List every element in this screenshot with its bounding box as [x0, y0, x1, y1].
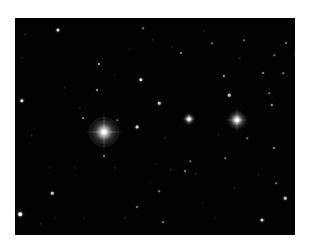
faint-star	[262, 72, 264, 74]
faint-star	[271, 104, 273, 106]
faint-star	[74, 167, 75, 168]
faint-star	[180, 52, 182, 54]
faint-star	[224, 157, 226, 159]
faint-star	[149, 182, 150, 183]
faint-star	[195, 173, 196, 174]
faint-star	[54, 217, 55, 218]
faint-star	[114, 74, 115, 75]
faint-star	[49, 167, 50, 168]
faint-star	[273, 54, 275, 56]
faint-star	[243, 39, 245, 41]
faint-star	[82, 117, 84, 119]
faint-star	[124, 217, 125, 218]
faint-star	[285, 42, 287, 44]
faint-star	[84, 217, 85, 218]
faint-star	[103, 155, 105, 157]
faint-star	[142, 27, 144, 29]
faint-star	[139, 78, 142, 81]
faint-star	[203, 30, 204, 31]
faint-star	[211, 42, 213, 44]
faint-star	[96, 89, 98, 91]
faint-star	[284, 197, 287, 200]
faint-star	[202, 202, 203, 203]
faint-star	[164, 137, 165, 138]
faint-star	[170, 169, 171, 170]
faint-star	[18, 212, 22, 216]
faint-star	[246, 137, 248, 139]
faint-star	[116, 119, 118, 121]
faint-star	[258, 174, 259, 175]
faint-star	[31, 135, 32, 136]
faint-star	[189, 160, 191, 162]
faint-star	[158, 190, 160, 192]
faint-star	[260, 218, 263, 221]
tertiary-bright-star	[188, 118, 191, 121]
faint-star	[98, 63, 100, 65]
faint-star	[114, 167, 115, 168]
primary-bright-star	[102, 130, 107, 135]
faint-star	[294, 54, 295, 55]
faint-star	[214, 217, 215, 218]
faint-star	[234, 187, 235, 188]
faint-star	[51, 192, 54, 195]
secondary-bright-star	[235, 118, 239, 122]
faint-star	[64, 87, 65, 88]
faint-star	[129, 49, 130, 50]
faint-star	[184, 170, 186, 172]
faint-star	[228, 94, 231, 97]
faint-star	[282, 72, 284, 74]
faint-star	[136, 206, 138, 208]
faint-star	[79, 107, 80, 108]
faint-star	[155, 163, 156, 164]
faint-star	[218, 134, 219, 135]
faint-star	[20, 99, 23, 102]
faint-star	[162, 221, 164, 223]
faint-star	[273, 147, 275, 149]
faint-star	[239, 57, 240, 58]
faint-star	[268, 92, 270, 94]
faint-star	[21, 57, 22, 58]
faint-star	[136, 126, 139, 129]
faint-star	[40, 223, 41, 224]
faint-star	[158, 102, 161, 105]
faint-star	[56, 28, 59, 31]
faint-star	[275, 182, 277, 184]
faint-star	[152, 39, 153, 40]
star-field-image	[15, 18, 295, 235]
faint-star	[24, 34, 25, 35]
faint-star	[171, 46, 172, 47]
faint-star	[223, 75, 225, 77]
